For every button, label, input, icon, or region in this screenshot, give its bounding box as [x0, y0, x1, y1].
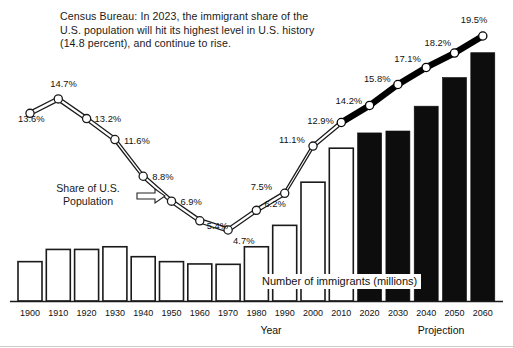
share-label-2010: 12.9%	[307, 115, 334, 126]
bar-2060	[471, 53, 495, 301]
share-point-1940	[139, 172, 147, 180]
bar-1940	[131, 257, 155, 301]
share-label-1960: 5.4%	[207, 220, 228, 231]
x-tick-1980: 1980	[241, 308, 271, 318]
share-point-2030	[394, 80, 402, 88]
share-label-1930: 11.6%	[124, 135, 150, 146]
x-tick-2040: 2040	[411, 308, 441, 318]
share-point-1910	[54, 95, 62, 103]
x-tick-2020: 2020	[355, 308, 385, 318]
share-label-1990: 7.5%	[251, 181, 272, 192]
share-label-1910: 14.7%	[50, 78, 77, 89]
bar-1910	[46, 249, 70, 301]
share-point-2000	[309, 142, 317, 150]
bars-group	[18, 53, 495, 301]
bar-1930	[103, 247, 127, 301]
share-label-1900: 13.6%	[18, 113, 45, 124]
chart-canvas	[0, 0, 513, 348]
bar-2050	[443, 78, 467, 301]
x-tick-1910: 1910	[43, 308, 73, 318]
bar-2040	[414, 106, 438, 301]
share-point-1950	[167, 197, 175, 205]
share-point-2040	[422, 63, 430, 71]
bar-1960	[188, 264, 212, 301]
share-point-2050	[450, 49, 458, 57]
share-label-2050: 18.2%	[425, 37, 452, 48]
immigration-chart: Census Bureau: In 2023, the immigrant sh…	[0, 0, 513, 348]
share-point-2020	[366, 101, 374, 109]
x-tick-1940: 1940	[128, 308, 158, 318]
x-axis-title: Year	[246, 324, 296, 336]
bar-1950	[160, 262, 184, 301]
x-tick-1920: 1920	[72, 308, 102, 318]
x-tick-1950: 1950	[157, 308, 187, 318]
x-tick-2030: 2030	[383, 308, 413, 318]
bar-1970	[216, 264, 240, 301]
share-line-historic-upper	[30, 97, 341, 228]
x-tick-1960: 1960	[185, 308, 215, 318]
share-label-2040: 17.1%	[394, 53, 421, 64]
share-label-1950: 6.9%	[181, 196, 202, 207]
share-label-1940: 8.8%	[152, 171, 173, 182]
x-tick-1970: 1970	[213, 308, 243, 318]
x-tick-2050: 2050	[440, 308, 470, 318]
share-point-1930	[111, 135, 119, 143]
bar-1990	[273, 225, 297, 301]
share-line-historic-lower	[30, 101, 341, 232]
number-of-immigrants-label: Number of immigrants (millions)	[258, 274, 421, 289]
share-point-1920	[83, 114, 91, 122]
x-tick-2010: 2010	[326, 308, 356, 318]
share-point-2060	[479, 32, 487, 40]
share-of-population-label: Share of U.S. Population	[34, 182, 142, 208]
x-tick-2000: 2000	[298, 308, 328, 318]
projection-label: Projection	[396, 324, 486, 336]
share-point-2010	[337, 118, 345, 126]
share-point-1980	[252, 206, 260, 214]
share-label-1970: 4.7%	[233, 235, 254, 246]
bar-1900	[18, 262, 42, 301]
x-tick-1990: 1990	[270, 308, 300, 318]
share-point-1990	[281, 189, 289, 197]
x-tick-1900: 1900	[15, 308, 45, 318]
x-tick-1930: 1930	[100, 308, 130, 318]
share-label-2020: 14.2%	[336, 95, 363, 106]
share-label-2030: 15.8%	[364, 73, 391, 84]
x-tick-2060: 2060	[468, 308, 498, 318]
share-label-1980: 6.2%	[264, 198, 285, 209]
bar-1920	[75, 249, 99, 301]
share-label-2000: 11.1%	[279, 134, 305, 145]
share-label-1920: 13.2%	[95, 113, 122, 124]
share-point-1960	[196, 217, 204, 225]
share-label-2060: 19.5%	[461, 14, 488, 25]
